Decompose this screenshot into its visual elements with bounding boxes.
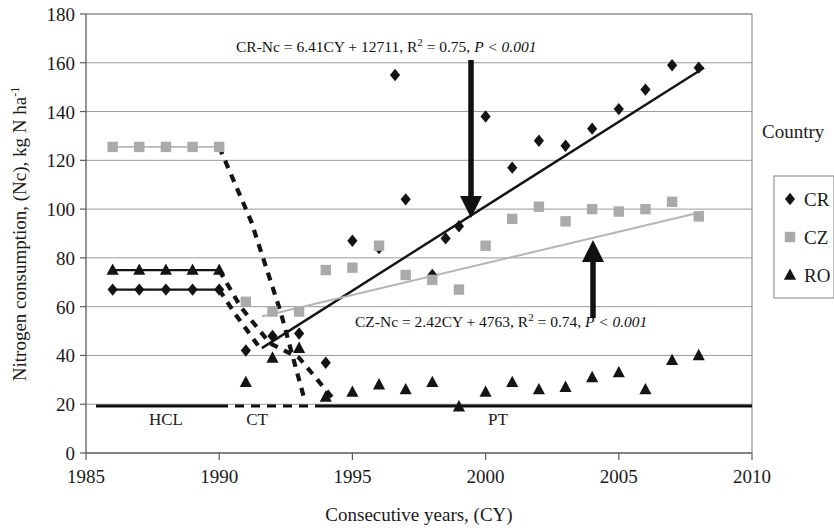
phase-ct-label: CT [246, 410, 268, 429]
data-point-CZ [107, 142, 117, 152]
y-tick-label: 160 [47, 53, 76, 74]
y-axis-title: Nitrogen consumption, (Nc), kg N ha-1 [8, 87, 31, 381]
x-tick-label: 2000 [467, 466, 505, 487]
x-tick-label: 2010 [733, 466, 771, 487]
phase-pt-label: PT [488, 410, 508, 429]
y-tick-label: 40 [56, 345, 75, 366]
data-point-CZ [187, 142, 197, 152]
y-tick-label: 120 [47, 150, 76, 171]
legend-marker-square-icon [785, 232, 795, 242]
y-tick-label: 0 [66, 443, 76, 464]
data-point-CZ [534, 201, 544, 211]
y-tick-label: 100 [47, 199, 76, 220]
data-point-CZ [374, 240, 384, 250]
x-axis-title: Consecutive years, (CY) [325, 504, 512, 526]
data-point-CZ [241, 297, 251, 307]
chart-background [0, 0, 834, 531]
data-point-CZ [347, 262, 357, 272]
legend-label-CR: CR [804, 189, 830, 210]
data-point-CZ [454, 284, 464, 294]
y-tick-label: 80 [56, 248, 75, 269]
y-tick-label: 60 [56, 297, 75, 318]
phase-hcl-label: HCL [149, 410, 183, 429]
data-point-CZ [480, 240, 490, 250]
data-point-CZ [161, 142, 171, 152]
data-point-CZ [587, 204, 597, 214]
legend-label-RO: RO [804, 265, 830, 286]
data-point-CZ [267, 306, 277, 316]
data-point-CZ [640, 204, 650, 214]
y-tick-label: 140 [47, 102, 76, 123]
data-point-CZ [694, 211, 704, 221]
legend-label-CZ: CZ [804, 227, 828, 248]
data-point-CZ [614, 206, 624, 216]
nitrogen-consumption-chart: 020406080100120140160180 198519901995200… [0, 0, 834, 531]
y-tick-label: 180 [47, 4, 76, 25]
data-point-CZ [134, 142, 144, 152]
data-point-CZ [321, 265, 331, 275]
cr-equation: CR-Nc = 6.41CY + 12711, R2 = 0.75, P < 0… [236, 36, 536, 55]
data-point-CZ [400, 270, 410, 280]
data-point-CZ [667, 197, 677, 207]
x-tick-label: 2005 [600, 466, 638, 487]
data-point-CZ [507, 214, 517, 224]
x-tick-label: 1985 [67, 466, 105, 487]
data-point-CZ [214, 142, 224, 152]
x-tick-label: 1990 [200, 466, 238, 487]
legend-title: Country [762, 121, 825, 142]
data-point-CZ [294, 306, 304, 316]
data-point-CZ [427, 275, 437, 285]
y-tick-label: 20 [56, 394, 75, 415]
data-point-CZ [560, 216, 570, 226]
cz-equation: CZ-Nc = 2.42CY + 4763, R2 = 0.74, P < 0.… [355, 311, 647, 330]
x-tick-label: 1995 [333, 466, 371, 487]
